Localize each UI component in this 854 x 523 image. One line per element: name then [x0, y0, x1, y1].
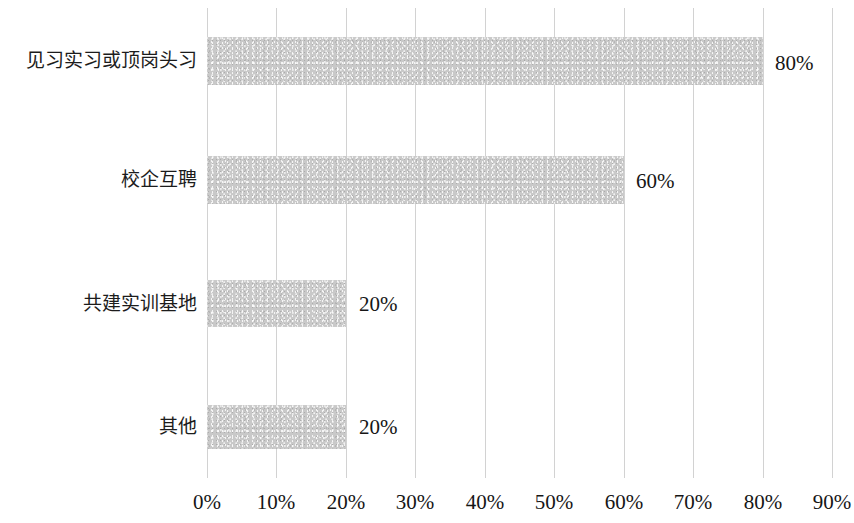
x-tick-label: 0%: [193, 492, 221, 513]
x-tick-label: 30%: [396, 492, 435, 513]
bar-value-label: 20%: [359, 417, 398, 438]
bar-series-item: [207, 280, 346, 327]
x-tick-label: 80%: [744, 492, 783, 513]
gridline-90: [832, 8, 833, 478]
gridline-80: [763, 8, 764, 478]
x-tick-label: 60%: [605, 492, 644, 513]
bar-value-label: 80%: [775, 53, 814, 74]
x-tick-label: 70%: [674, 492, 713, 513]
bar-series-item: [207, 405, 346, 449]
x-tick-label: 10%: [257, 492, 296, 513]
x-axis: 0% 10% 20% 30% 40% 50% 60% 70% 80% 90%: [207, 492, 832, 520]
category-label: 其他: [159, 417, 197, 436]
x-tick-label: 50%: [535, 492, 574, 513]
x-tick-label: 40%: [466, 492, 505, 513]
category-label: 见习实习或顶岗头习: [26, 51, 197, 70]
plot-area: 80% 60% 20% 20%: [207, 8, 832, 478]
bar-chart: 80% 60% 20% 20% 见习实习或顶岗头习 校企互聘 共建实训基地 其他…: [0, 0, 854, 523]
bar-value-label: 60%: [636, 171, 675, 192]
x-tick-label: 90%: [813, 492, 852, 513]
bar-series-item: [207, 156, 624, 204]
category-axis: 见习实习或顶岗头习 校企互聘 共建实训基地 其他: [0, 8, 197, 478]
bar-value-label: 20%: [359, 294, 398, 315]
category-label: 共建实训基地: [83, 294, 197, 313]
x-tick-label: 20%: [327, 492, 366, 513]
bar-series-item: [207, 37, 763, 85]
category-label: 校企互聘: [121, 170, 197, 189]
